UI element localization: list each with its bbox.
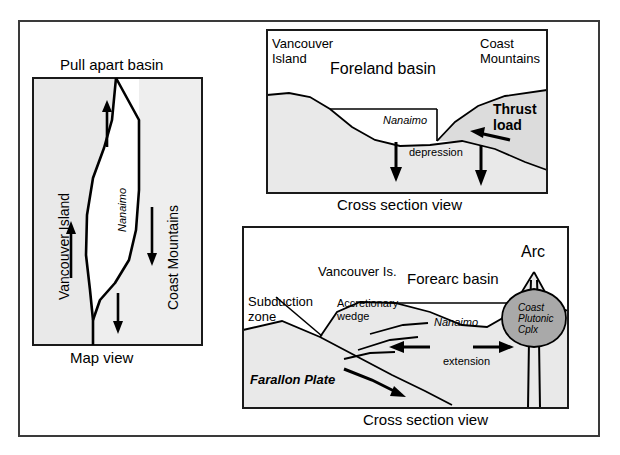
forearc-label-accretionary-wedge: Accretionary wedge — [337, 297, 399, 323]
map-label-nanaimo: Nanaimo — [116, 188, 128, 232]
forearc-panel-caption: Cross section view — [363, 411, 488, 428]
forearc-label-arc: Arc — [521, 243, 545, 261]
foreland-label-depression: depression — [409, 146, 463, 158]
forearc-label-extension: extension — [443, 355, 490, 367]
forearc-label-coast-plutonic-complex: Coast Plutonic Cplx — [518, 302, 562, 335]
forearc-label-vancouver-island: Vancouver Is. — [318, 264, 397, 279]
forearc-label-basin: Forearc basin — [407, 270, 499, 287]
foreland-label-thrust-load: Thrust load — [493, 101, 553, 133]
map-label-vancouver-island: Vancouver Island — [56, 193, 72, 300]
forearc-label-subduction-zone: Subduction zone — [248, 294, 328, 324]
map-panel-caption: Map view — [70, 349, 133, 366]
forearc-label-nanaimo: Nanaimo — [434, 316, 478, 328]
foreland-label-nanaimo: Nanaimo — [383, 114, 427, 126]
figure-root: Pull apart basin Map view Vancouver Isla… — [0, 0, 620, 455]
foreland-label-basin: Foreland basin — [330, 60, 436, 78]
forearc-label-farallon-plate: Farallon Plate — [250, 372, 335, 387]
foreland-label-coast-mountains: Coast Mountains — [480, 36, 560, 66]
foreland-panel-caption: Cross section view — [337, 196, 462, 213]
map-panel-title: Pull apart basin — [60, 56, 163, 73]
map-label-coast-mountains: Coast Mountains — [165, 205, 181, 310]
